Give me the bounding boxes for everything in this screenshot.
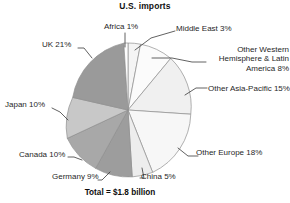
slice-label-other-western-hemisphere: Other Western Hemisphere & Latin America…: [203, 45, 289, 73]
slice-label-uk: UK 21%: [42, 40, 71, 49]
slice-label-other-europe: Other Europe 18%: [196, 148, 262, 157]
leader-line-japan: [52, 108, 68, 120]
slice-label-canada: Canada 10%: [19, 150, 65, 159]
chart-total-label: Total = $1.8 billion: [0, 188, 240, 197]
pie-chart-figure: U.S. imports: [0, 0, 290, 203]
leader-line-uk: [78, 48, 92, 58]
pie-slices: [66, 43, 191, 177]
leader-line-canada: [68, 157, 82, 160]
leader-line-other-europe: [178, 148, 198, 156]
slice-label-africa: Africa 1%: [104, 22, 138, 31]
slice-label-germany: Germany 9%: [52, 172, 99, 181]
slice-label-china: China 5%: [141, 172, 176, 181]
slice-label-japan: Japan 10%: [5, 100, 45, 109]
slice-label-middle-east: Middle East 3%: [176, 24, 232, 33]
slice-label-other-asia-pacific: Other Asia-Pacific 15%: [208, 84, 290, 93]
